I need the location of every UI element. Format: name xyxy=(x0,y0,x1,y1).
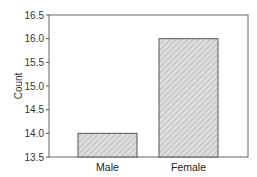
y-tick-label: 14.0 xyxy=(25,128,45,139)
y-tick-label: 16.0 xyxy=(25,33,45,44)
bar-male xyxy=(78,133,137,157)
y-axis: 13.514.014.515.015.516.016.5 xyxy=(25,10,49,163)
bar-female xyxy=(159,39,218,157)
y-tick-label: 15.5 xyxy=(25,57,45,68)
x-axis-labels: MaleFemale xyxy=(96,161,206,173)
y-tick-label: 14.5 xyxy=(25,104,45,115)
bar-chart: 13.514.014.515.015.516.016.5 MaleFemale … xyxy=(0,0,257,177)
x-category-label: Male xyxy=(96,161,119,173)
y-tick-label: 13.5 xyxy=(25,152,45,163)
x-category-label: Female xyxy=(171,161,206,173)
y-tick-label: 15.0 xyxy=(25,81,45,92)
y-tick-label: 16.5 xyxy=(25,10,45,21)
bars xyxy=(78,39,218,157)
y-axis-title: Count xyxy=(13,72,24,99)
